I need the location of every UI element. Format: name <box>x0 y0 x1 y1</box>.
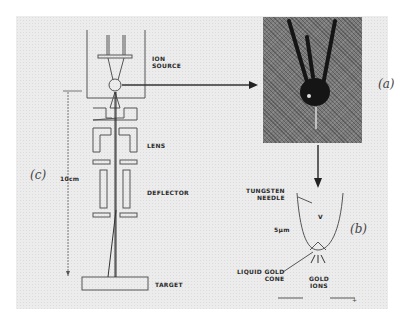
label-lens: LENS <box>147 142 165 149</box>
arrow-head-icon <box>249 81 258 89</box>
label-dimension: 10cm <box>60 175 79 182</box>
photo-ion-emitter <box>263 17 362 143</box>
label-tungsten-needle: TUNGSTEN NEEDLE <box>246 187 285 201</box>
label-gold-ions: GOLD IONS <box>309 275 329 289</box>
label-deflector: DEFLECTOR <box>147 189 189 196</box>
ion-source-housing <box>87 30 145 98</box>
deflector-right <box>123 170 130 208</box>
panel-label-c: (c) <box>30 168 46 182</box>
panel-label-b: (b) <box>350 222 367 236</box>
label-v-mark: V <box>318 213 323 220</box>
label-scale: 5µm <box>274 226 290 233</box>
panel-label-a: (a) <box>378 77 395 91</box>
electrode-plate <box>98 55 132 58</box>
target-plate <box>82 277 148 290</box>
needle-outline <box>297 193 343 250</box>
arrow-down-icon <box>314 178 322 188</box>
label-target: TARGET <box>155 281 183 288</box>
svg-text:+: + <box>352 296 357 303</box>
deflector-left <box>100 170 107 208</box>
lens-left <box>93 128 111 152</box>
lens-right <box>119 128 137 152</box>
emitter-circle <box>109 79 121 91</box>
label-ion-source: ION SOURCE <box>152 55 181 69</box>
photo-content <box>263 17 362 143</box>
label-liquid-gold-cone: LIQUID GOLD CONE <box>237 268 284 282</box>
